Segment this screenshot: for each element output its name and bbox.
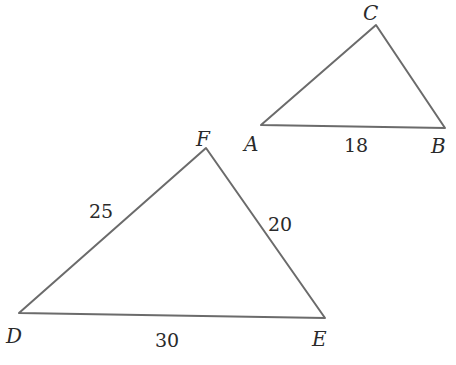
vertex-label-e: E (311, 327, 327, 351)
vertex-label-b: B (430, 134, 446, 158)
side-label-df: 25 (89, 200, 113, 222)
side-label-ab: 18 (344, 134, 368, 156)
vertex-label-d: D (5, 324, 22, 348)
similar-triangles-diagram: A B C 18 D E F 25 20 30 (0, 0, 456, 365)
vertex-label-c: C (363, 1, 378, 25)
diagram-svg: A B C 18 D E F 25 20 30 (0, 0, 456, 365)
side-label-fe: 20 (268, 213, 292, 235)
triangle-abc (261, 25, 445, 128)
vertex-label-f: F (195, 127, 211, 151)
side-label-de: 30 (155, 329, 179, 351)
vertex-label-a: A (242, 132, 258, 156)
